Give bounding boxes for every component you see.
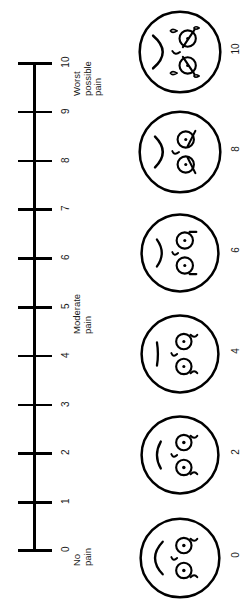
- anchor-worst-possible-pain: Worst possible pain: [72, 61, 104, 96]
- numeric-rating-scale: 10 9 8 7 6 5 4 3 2 1 0 Worst possible pa…: [12, 62, 112, 552]
- anchor-worst-line3: pain: [93, 61, 104, 96]
- face-row-4[interactable]: 4: [128, 304, 247, 404]
- face-crying-icon: [132, 4, 228, 100]
- scale-tick-2: [18, 452, 52, 455]
- face-slight-frown-icon: [132, 306, 228, 402]
- scale-label-10: 10: [59, 52, 73, 72]
- face-row-0[interactable]: 0: [128, 508, 247, 608]
- face-label-10: 10: [229, 39, 243, 59]
- anchor-no-pain: No pain: [72, 548, 93, 566]
- scale-label-9: 9: [59, 101, 73, 121]
- scale-label-7: 7: [59, 198, 73, 218]
- face-row-8[interactable]: 8: [128, 102, 247, 202]
- scale-tick-7: [18, 208, 52, 211]
- face-row-2[interactable]: 2: [128, 405, 247, 505]
- face-frowning-icon: [132, 205, 228, 301]
- scale-tick-1: [18, 501, 52, 504]
- face-row-10[interactable]: 10: [128, 2, 247, 102]
- anchor-worst-line1: Worst: [72, 61, 83, 96]
- scale-label-1: 1: [59, 491, 73, 511]
- scale-label-3: 3: [59, 394, 73, 414]
- face-row-6[interactable]: 6: [128, 203, 247, 303]
- scale-tick-5: [18, 306, 52, 309]
- face-label-8: 8: [229, 139, 243, 159]
- face-label-4: 4: [229, 341, 243, 361]
- face-faint-smile-icon: [132, 407, 228, 503]
- anchor-moderate-line1: Moderate: [72, 294, 83, 334]
- scale-tick-8: [18, 160, 52, 163]
- anchor-moderate-pain: Moderate pain: [72, 294, 93, 334]
- pain-rating-scale: 10 9 8 7 6 5 4 3 2 1 0 Worst possible pa…: [0, 0, 247, 611]
- face-label-6: 6: [229, 240, 243, 260]
- scale-tick-3: [18, 404, 52, 407]
- anchor-no-line2: pain: [83, 548, 94, 566]
- scale-label-8: 8: [59, 150, 73, 170]
- scale-tick-6: [18, 257, 52, 260]
- scale-tick-4: [18, 355, 52, 358]
- face-label-2: 2: [229, 442, 243, 462]
- anchor-no-line1: No: [72, 548, 83, 566]
- scale-tick-0: [18, 549, 52, 552]
- faces-pain-scale: 10 8: [128, 0, 247, 611]
- face-label-0: 0: [229, 545, 243, 565]
- scale-label-6: 6: [59, 247, 73, 267]
- scale-label-2: 2: [59, 442, 73, 462]
- scale-tick-10: [18, 62, 52, 65]
- anchor-moderate-line2: pain: [83, 294, 94, 334]
- scale-tick-9: [18, 111, 52, 114]
- face-smiling-icon: [132, 510, 228, 606]
- face-distressed-icon: [132, 104, 228, 200]
- scale-label-4: 4: [59, 345, 73, 365]
